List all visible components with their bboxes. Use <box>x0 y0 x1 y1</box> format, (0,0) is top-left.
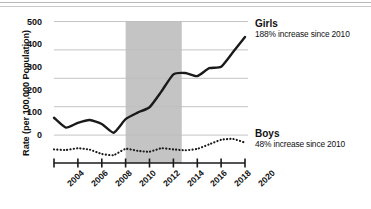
annotation-girls-subtitle: 188% increase since 2010 <box>255 29 350 39</box>
annotation-girls-title: Girls <box>255 18 350 29</box>
annotation-boys-subtitle: 48% increase since 2010 <box>255 139 345 149</box>
chart-figure: Rate (per 100,000 Population) 500 400 30… <box>0 0 371 209</box>
annotation-boys-title: Boys <box>255 128 345 139</box>
annotation-boys: Boys 48% increase since 2010 <box>255 128 345 149</box>
annotation-girls: Girls 188% increase since 2010 <box>255 18 350 39</box>
x-axis <box>54 159 245 168</box>
shaded-band-region <box>126 21 182 163</box>
